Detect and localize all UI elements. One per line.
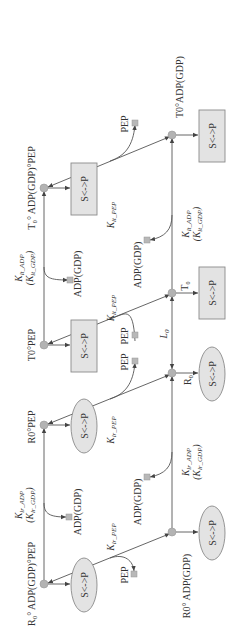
adp-binding-curve-4: [150, 452, 172, 477]
pep-label-2: PEP: [119, 327, 130, 345]
svg-text:Klr_PEP: Klr_PEP: [106, 523, 118, 552]
svg-text:S<->P: S<->P: [207, 123, 218, 149]
label-r0-adp: R0° ADP(GDP): [181, 554, 193, 618]
pep-ligand-square-1: [132, 120, 138, 126]
allosteric-model-diagram: S<->P S<->P S<->P S<->P S<->P S<->P S<->…: [0, 0, 233, 634]
transition-box-t0: S<->P: [199, 267, 225, 319]
svg-text:(Klr_GDP): (Klr_GDP): [25, 487, 37, 522]
svg-text:(Klr_GDP): (Klr_GDP): [192, 444, 204, 479]
svg-text:(Klt_GDP): (Klt_GDP): [25, 251, 37, 285]
svg-text:S<->P: S<->P: [79, 333, 90, 359]
edge-kt-pep-top: [48, 137, 169, 187]
svg-text:(Klt_GDP): (Klt_GDP): [192, 207, 204, 241]
transition-ellipse-r0-adp: S<->P: [199, 506, 225, 560]
label-t0-adp: T0°ADP(GDP): [174, 56, 186, 118]
transition-ellipse-r0: S<->P: [199, 347, 225, 401]
kr-adp-label-right: Klr_ADP (Klr_GDP): [181, 444, 204, 479]
svg-text:S<->P: S<->P: [207, 280, 218, 306]
state-node-r0-adp-pep: [40, 580, 48, 588]
edge-kr-pep-bottom: [48, 534, 169, 583]
kt-adp-label-right: Klt_ADP (Klt_GDP): [181, 207, 204, 241]
pep-label-4: PEP: [119, 566, 130, 584]
svg-text:S<->P: S<->P: [79, 176, 90, 202]
adp-ligand-square-4: [144, 474, 150, 480]
state-node-r0: [168, 369, 176, 377]
state-node-r0-adp: [168, 528, 176, 536]
svg-text:Klr_PEP: Klr_PEP: [106, 416, 118, 445]
transition-ellipse-r0-pep: S<->P: [71, 399, 97, 453]
transition-ellipse-r0-adp-pep: S<->P: [71, 558, 97, 612]
pep-label-3: PEP: [119, 353, 130, 371]
state-node-t0-adp-pep: [40, 184, 48, 192]
pep-ligand-square-3: [132, 358, 138, 364]
state-node-t0-adp: [168, 131, 176, 139]
label-r0-pep: R0°PEP: [26, 410, 37, 443]
l0-label: L0: [159, 329, 171, 339]
kr-adp-label-left: Klr_ADP (Klr_GDP): [14, 487, 37, 522]
label-r0: R₀: [182, 374, 193, 385]
adp-label-2: ADP(GDP): [72, 489, 84, 536]
svg-text:Klt_PEP: Klt_PEP: [106, 294, 118, 322]
transition-box-t0-adp-pep: S<->P: [71, 163, 97, 215]
adp-label-4: ADP(GDP): [132, 479, 144, 526]
svg-text:S<->P: S<->P: [207, 361, 218, 387]
state-node-t0: [168, 289, 176, 297]
svg-text:S<->P: S<->P: [207, 520, 218, 546]
kr-pep-label-mid: Klr_PEP: [106, 416, 118, 445]
label-t0: T₀: [179, 281, 190, 291]
kt-adp-label-left: Klt_ADP (Klt_GDP): [14, 251, 37, 285]
transition-box-t0-pep: S<->P: [71, 320, 97, 372]
svg-text:L0: L0: [159, 329, 171, 339]
state-node-r0-pep: [40, 421, 48, 429]
label-t0-adp-pep: T₀° ADP(GDP)°PEP: [26, 146, 38, 230]
adp-binding-curve-1: [44, 267, 68, 280]
label-r0-adp-pep: R₀° ADP(GDP)°PEP: [26, 542, 38, 626]
svg-text:S<->P: S<->P: [79, 413, 90, 439]
adp-ligand-square-3: [144, 237, 150, 243]
edge-kr-pep-mid: [48, 375, 169, 424]
kr-pep-label-bottom: Klr_PEP: [106, 523, 118, 552]
transition-box-t0-adp: S<->P: [199, 110, 225, 162]
state-node-t0-pep: [40, 341, 48, 349]
kt-pep-label-mid: Klt_PEP: [106, 294, 118, 322]
svg-text:S<->P: S<->P: [79, 572, 90, 598]
adp-label-3: ADP(GDP): [132, 242, 144, 289]
label-t0-pep: T0°PEP: [26, 328, 37, 361]
pep-label-1: PEP: [119, 115, 130, 133]
svg-text:Klt_PEP: Klt_PEP: [106, 201, 118, 229]
adp-binding-curve-2: [44, 503, 66, 517]
adp-binding-curve-3: [150, 215, 172, 240]
adp-label-1: ADP(GDP): [72, 251, 84, 298]
pep-ligand-square-2: [132, 332, 138, 338]
kt-pep-label-top: Klt_PEP: [106, 201, 118, 229]
pep-ligand-square-4: [131, 571, 137, 577]
